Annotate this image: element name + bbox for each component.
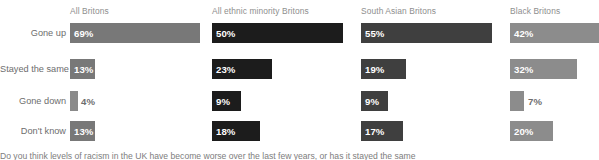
bar-all-britons-gone-up: 69%	[70, 23, 200, 43]
bar-value: 17%	[361, 126, 385, 137]
bar-all-britons-dont-know: 13%	[70, 121, 95, 141]
chart-footnote: Do you think levels of racism in the UK …	[0, 151, 599, 160]
bar-value: 23%	[212, 64, 236, 75]
bar-value: 42%	[510, 28, 534, 39]
bar-value: 9%	[361, 96, 379, 107]
bar-ethnic-minority-gone-down: 9%	[212, 91, 241, 111]
row-label-gone-down: Gone down	[0, 96, 66, 106]
bar-black-britons-gone-up: 42%	[510, 23, 599, 43]
bar-black-britons-gone-down	[510, 91, 524, 111]
column-header-black-britons: Black Britons	[510, 6, 560, 16]
bar-value: 13%	[70, 64, 94, 75]
bar-value: 18%	[212, 126, 236, 137]
bar-value: 69%	[70, 28, 94, 39]
bar-ethnic-minority-stayed-the-same: 23%	[212, 59, 272, 79]
bar-south-asian-gone-down: 9%	[361, 91, 388, 111]
bar-black-britons-stayed-the-same: 32%	[510, 59, 577, 79]
bar-value: 13%	[70, 126, 94, 137]
bar-value: 4%	[81, 96, 95, 107]
bar-south-asian-stayed-the-same: 19%	[361, 59, 406, 79]
bar-ethnic-minority-dont-know: 18%	[212, 121, 260, 141]
bar-all-britons-stayed-the-same: 13%	[70, 59, 95, 79]
row-label-dont-know: Don't know	[0, 126, 66, 136]
bar-all-britons-gone-down	[70, 91, 78, 111]
bar-south-asian-gone-up: 55%	[361, 23, 492, 43]
bar-value: 20%	[510, 126, 534, 137]
bar-value: 50%	[212, 28, 236, 39]
bar-value: 55%	[361, 28, 385, 39]
row-label-gone-up: Gone up	[0, 28, 66, 38]
bar-ethnic-minority-gone-up: 50%	[212, 23, 343, 43]
bar-value: 19%	[361, 64, 385, 75]
bar-value: 7%	[528, 96, 542, 107]
column-header-all-ethnic-minority-britons: All ethnic minority Britons	[212, 6, 309, 16]
bar-black-britons-dont-know: 20%	[510, 121, 553, 141]
column-header-south-asian-britons: South Asian Britons	[361, 6, 436, 16]
bar-value: 9%	[212, 96, 230, 107]
row-label-stayed-the-same: Stayed the same	[0, 64, 66, 74]
bar-value: 32%	[510, 64, 534, 75]
column-header-all-britons: All Britons	[70, 6, 109, 16]
grouped-bar-chart: All Britons All ethnic minority Britons …	[0, 0, 599, 160]
bar-south-asian-dont-know: 17%	[361, 121, 403, 141]
